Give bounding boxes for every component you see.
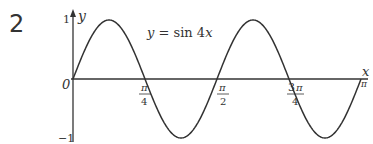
y-axis-label: y	[77, 8, 87, 24]
svg-text:π: π	[140, 82, 148, 93]
y-min-label: −1	[58, 132, 74, 144]
svg-text:π: π	[218, 82, 226, 93]
svg-text:4: 4	[292, 96, 298, 107]
origin-label: 0	[62, 77, 70, 92]
tick-pi: π	[360, 79, 368, 89]
tick-pi-over-2: π 2	[217, 82, 229, 107]
tick-3pi-over-4: 3 π 4	[287, 81, 304, 107]
tick-pi-over-4: π 4	[139, 82, 151, 107]
sine-chart: 1 y 0 −1 y = sin 4x π 4 π 2 3 π 4 x π	[0, 0, 373, 144]
y-max-label: 1	[63, 13, 70, 26]
x-axis-label: x	[362, 64, 370, 79]
svg-text:π: π	[295, 82, 303, 93]
svg-text:3: 3	[288, 81, 295, 94]
svg-text:4: 4	[141, 96, 147, 107]
y-axis-arrow-icon	[70, 9, 76, 17]
svg-text:2: 2	[220, 96, 226, 107]
equation-label: y = sin 4x	[146, 25, 213, 40]
